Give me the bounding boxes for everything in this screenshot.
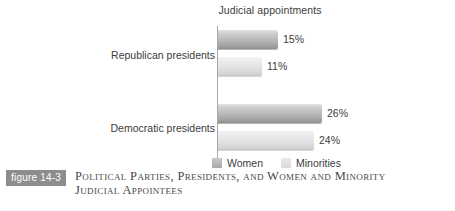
bar-value-democratic-women: 26%	[327, 107, 348, 119]
bar-republican-women	[218, 30, 278, 49]
legend-swatch-minorities-icon	[281, 158, 291, 168]
legend-label-women: Women	[227, 157, 263, 169]
figure-caption-line-2: Judicial Appointees	[75, 183, 386, 197]
figure-number-badge: figure 14-3	[6, 170, 66, 186]
figure-caption: figure 14-3 Political Parties, President…	[6, 170, 386, 197]
figure-caption-line-1: Political Parties, Presidents, and Women…	[75, 169, 386, 183]
bar-value-republican-women: 15%	[283, 33, 304, 45]
chart-legend: Women Minorities	[212, 157, 341, 169]
legend-swatch-women-icon	[212, 158, 222, 168]
legend-label-minorities: Minorities	[296, 157, 341, 169]
figure-judicial-appointments: Judicial appointments Republican preside…	[0, 0, 455, 211]
category-label-democratic-presidents: Democratic presidents	[35, 122, 215, 134]
chart-title: Judicial appointments	[160, 4, 380, 16]
figure-caption-text: Political Parties, Presidents, and Women…	[75, 169, 386, 197]
bar-value-republican-minorities: 11%	[267, 60, 287, 72]
bar-democratic-minorities	[218, 131, 314, 150]
bar-value-democratic-minorities: 24%	[319, 134, 340, 146]
bar-republican-minorities	[218, 57, 262, 76]
legend-item-minorities: Minorities	[281, 157, 341, 169]
category-label-republican-presidents: Republican presidents	[35, 49, 215, 61]
bar-democratic-women	[218, 104, 322, 123]
legend-item-women: Women	[212, 157, 263, 169]
